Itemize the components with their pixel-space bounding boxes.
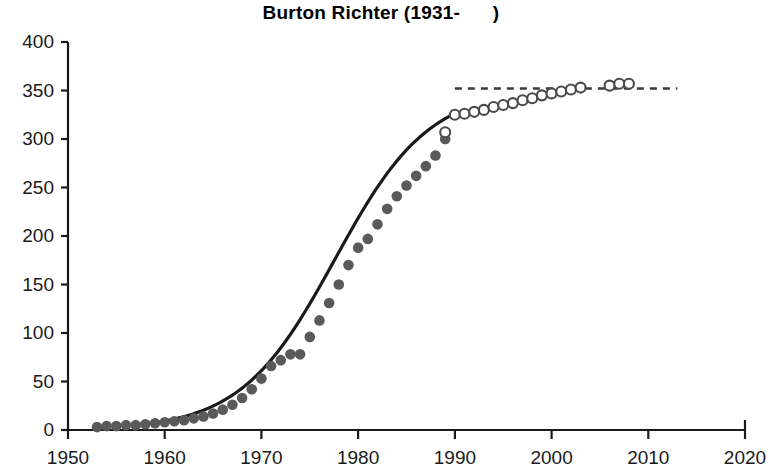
data-point — [624, 79, 634, 89]
data-point — [217, 404, 228, 415]
data-point — [372, 219, 383, 230]
data-point — [460, 109, 470, 119]
y-tick-label-350: 350 — [0, 80, 54, 102]
data-point — [411, 171, 422, 182]
data-point — [140, 419, 151, 430]
data-point — [576, 83, 586, 93]
data-point — [527, 93, 537, 103]
data-point — [324, 298, 335, 309]
data-point — [159, 417, 170, 428]
data-point — [304, 332, 315, 343]
x-tick-label-2010: 2010 — [598, 447, 698, 469]
y-tick-label-100: 100 — [0, 322, 54, 344]
x-tick-label-1990: 1990 — [405, 447, 505, 469]
data-point — [518, 95, 528, 105]
axis-lines — [68, 42, 745, 430]
y-tick-label-400: 400 — [0, 31, 54, 53]
data-point — [246, 384, 257, 395]
y-tick-label-300: 300 — [0, 128, 54, 150]
data-point — [121, 420, 132, 431]
data-point — [547, 88, 557, 98]
data-point — [440, 127, 450, 137]
data-point — [275, 355, 286, 366]
x-tick-label-2020: 2020 — [695, 447, 770, 469]
data-point — [285, 349, 296, 360]
data-point — [498, 100, 508, 110]
y-tick-label-150: 150 — [0, 274, 54, 296]
data-point — [266, 361, 277, 372]
data-point — [314, 315, 325, 326]
fit-curve — [136, 113, 455, 425]
data-point — [169, 416, 180, 427]
data-point — [111, 421, 122, 432]
data-point — [295, 349, 306, 360]
x-axis-ticks — [68, 430, 745, 439]
data-point — [605, 81, 615, 91]
data-point — [421, 161, 432, 172]
data-point — [430, 150, 441, 161]
y-tick-label-0: 0 — [0, 419, 54, 441]
data-point — [130, 420, 141, 431]
data-point — [450, 110, 460, 120]
x-tick-label-1980: 1980 — [308, 447, 408, 469]
data-point — [489, 102, 499, 112]
data-point — [188, 413, 199, 424]
data-point — [469, 107, 479, 117]
data-point — [363, 234, 374, 245]
data-point — [92, 422, 103, 433]
data-point — [256, 373, 267, 384]
y-tick-label-250: 250 — [0, 177, 54, 199]
y-tick-label-50: 50 — [0, 371, 54, 393]
x-tick-label-1970: 1970 — [211, 447, 311, 469]
x-tick-label-1950: 1950 — [18, 447, 118, 469]
data-point — [208, 408, 219, 419]
data-point — [227, 399, 238, 410]
data-point — [101, 421, 112, 432]
data-point — [150, 418, 161, 429]
data-point — [198, 411, 209, 422]
data-point — [334, 279, 345, 290]
data-point — [179, 415, 190, 426]
data-point — [556, 86, 566, 96]
data-point — [392, 191, 403, 202]
data-point — [566, 85, 576, 95]
data-point — [401, 180, 412, 191]
data-point — [479, 105, 489, 115]
data-point — [353, 242, 364, 253]
x-tick-label-2000: 2000 — [502, 447, 602, 469]
x-tick-label-1960: 1960 — [115, 447, 215, 469]
data-point — [382, 204, 393, 215]
data-point — [508, 98, 518, 108]
data-point — [537, 90, 547, 100]
filled-data-points — [92, 134, 451, 433]
data-point — [343, 260, 354, 271]
data-point — [237, 393, 248, 404]
y-tick-label-200: 200 — [0, 225, 54, 247]
data-point — [614, 79, 624, 89]
